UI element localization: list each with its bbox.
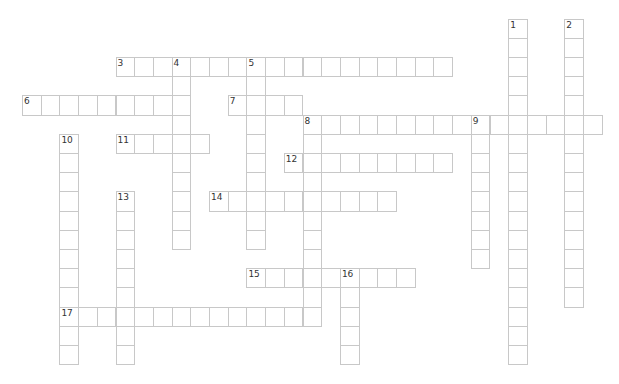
crossword-cell[interactable]: [321, 268, 341, 288]
crossword-cell[interactable]: [359, 191, 379, 211]
crossword-cell[interactable]: [508, 76, 528, 96]
crossword-cell[interactable]: [377, 153, 397, 173]
crossword-cell[interactable]: 8: [303, 115, 323, 135]
crossword-cell[interactable]: 5: [246, 57, 266, 77]
crossword-cell[interactable]: [359, 115, 379, 135]
crossword-cell[interactable]: [303, 57, 323, 77]
crossword-cell[interactable]: [172, 191, 192, 211]
crossword-cell[interactable]: [246, 191, 266, 211]
crossword-cell[interactable]: [508, 345, 528, 365]
crossword-cell[interactable]: [340, 345, 360, 365]
crossword-cell[interactable]: [246, 115, 266, 135]
crossword-cell[interactable]: [284, 57, 304, 77]
crossword-cell[interactable]: [116, 287, 136, 307]
crossword-cell[interactable]: [246, 76, 266, 96]
crossword-cell[interactable]: [134, 134, 154, 154]
crossword-cell[interactable]: [246, 153, 266, 173]
crossword-cell[interactable]: [209, 57, 229, 77]
crossword-cell[interactable]: [564, 115, 584, 135]
crossword-cell[interactable]: [134, 57, 154, 77]
crossword-cell[interactable]: [396, 115, 416, 135]
crossword-cell[interactable]: 16: [340, 268, 360, 288]
crossword-cell[interactable]: [153, 134, 173, 154]
crossword-cell[interactable]: [508, 249, 528, 269]
crossword-cell[interactable]: [340, 326, 360, 346]
crossword-cell[interactable]: [471, 153, 491, 173]
crossword-cell[interactable]: [190, 134, 210, 154]
crossword-cell[interactable]: [59, 326, 79, 346]
crossword-cell[interactable]: 4: [172, 57, 192, 77]
crossword-cell[interactable]: [340, 153, 360, 173]
crossword-cell[interactable]: [78, 307, 98, 327]
crossword-cell[interactable]: [59, 191, 79, 211]
crossword-cell[interactable]: [508, 230, 528, 250]
crossword-cell[interactable]: [134, 95, 154, 115]
crossword-cell[interactable]: [265, 95, 285, 115]
crossword-cell[interactable]: [508, 95, 528, 115]
crossword-cell[interactable]: [172, 172, 192, 192]
crossword-cell[interactable]: 7: [228, 95, 248, 115]
crossword-cell[interactable]: [508, 57, 528, 77]
crossword-cell[interactable]: [172, 76, 192, 96]
crossword-cell[interactable]: [340, 191, 360, 211]
crossword-cell[interactable]: [265, 191, 285, 211]
crossword-cell[interactable]: [134, 307, 154, 327]
crossword-cell[interactable]: [433, 153, 453, 173]
crossword-cell[interactable]: [78, 95, 98, 115]
crossword-cell[interactable]: [321, 153, 341, 173]
crossword-cell[interactable]: [471, 134, 491, 154]
crossword-cell[interactable]: [284, 95, 304, 115]
crossword-cell[interactable]: [303, 268, 323, 288]
crossword-cell[interactable]: [303, 134, 323, 154]
crossword-cell[interactable]: [59, 268, 79, 288]
crossword-cell[interactable]: [190, 307, 210, 327]
crossword-cell[interactable]: [471, 249, 491, 269]
crossword-cell[interactable]: [508, 134, 528, 154]
crossword-cell[interactable]: [303, 307, 323, 327]
crossword-cell[interactable]: [321, 115, 341, 135]
crossword-cell[interactable]: [546, 115, 566, 135]
crossword-cell[interactable]: [172, 115, 192, 135]
crossword-cell[interactable]: [172, 95, 192, 115]
crossword-cell[interactable]: [340, 57, 360, 77]
crossword-cell[interactable]: [59, 249, 79, 269]
crossword-cell[interactable]: [116, 326, 136, 346]
crossword-cell[interactable]: [564, 287, 584, 307]
crossword-cell[interactable]: [228, 57, 248, 77]
crossword-cell[interactable]: [284, 268, 304, 288]
crossword-cell[interactable]: [228, 307, 248, 327]
crossword-cell[interactable]: [564, 249, 584, 269]
crossword-cell[interactable]: [41, 95, 61, 115]
crossword-cell[interactable]: [490, 115, 510, 135]
crossword-cell[interactable]: [303, 172, 323, 192]
crossword-cell[interactable]: [97, 95, 117, 115]
crossword-cell[interactable]: [508, 307, 528, 327]
crossword-cell[interactable]: [172, 307, 192, 327]
crossword-cell[interactable]: [415, 57, 435, 77]
crossword-cell[interactable]: [321, 191, 341, 211]
crossword-cell[interactable]: [564, 95, 584, 115]
crossword-cell[interactable]: [265, 268, 285, 288]
crossword-cell[interactable]: [471, 230, 491, 250]
crossword-cell[interactable]: [508, 287, 528, 307]
crossword-cell[interactable]: [116, 345, 136, 365]
crossword-cell[interactable]: [340, 307, 360, 327]
crossword-cell[interactable]: [321, 57, 341, 77]
crossword-cell[interactable]: [59, 95, 79, 115]
crossword-cell[interactable]: [377, 57, 397, 77]
crossword-cell[interactable]: [172, 211, 192, 231]
crossword-cell[interactable]: [396, 153, 416, 173]
crossword-cell[interactable]: [59, 287, 79, 307]
crossword-cell[interactable]: [433, 57, 453, 77]
crossword-cell[interactable]: [452, 115, 472, 135]
crossword-cell[interactable]: [246, 95, 266, 115]
crossword-cell[interactable]: [246, 230, 266, 250]
crossword-cell[interactable]: 6: [22, 95, 42, 115]
crossword-cell[interactable]: [564, 172, 584, 192]
crossword-cell[interactable]: [265, 307, 285, 327]
crossword-cell[interactable]: [564, 230, 584, 250]
crossword-cell[interactable]: [303, 211, 323, 231]
crossword-cell[interactable]: [564, 268, 584, 288]
crossword-cell[interactable]: [97, 307, 117, 327]
crossword-cell[interactable]: 13: [116, 191, 136, 211]
